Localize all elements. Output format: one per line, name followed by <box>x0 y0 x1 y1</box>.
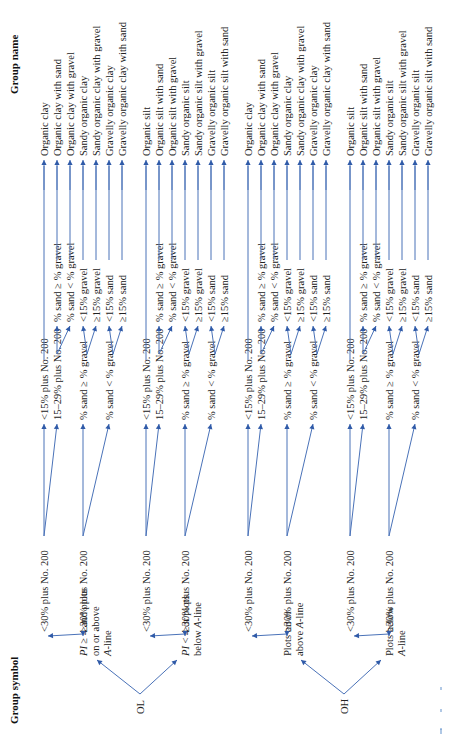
arrowhead-icon <box>271 160 276 165</box>
fines-condition-label: <30% plus No. 200 <box>141 550 152 632</box>
arrowhead-icon <box>245 424 250 429</box>
arrowhead-icon <box>323 160 328 165</box>
arrow-line <box>83 424 109 536</box>
arrowhead-icon <box>143 424 148 429</box>
flowchart-diagram: Group symbol Group name <15% plus No. 20… <box>0 0 450 742</box>
group-name-item: Gravelly organic clay with sand <box>321 21 332 156</box>
arrowhead-icon <box>208 160 213 165</box>
arrowhead-icon <box>54 160 59 165</box>
group-name-item: Gravelly organic clay <box>104 64 115 156</box>
percent-condition: <15% gravel <box>78 268 89 322</box>
arrowhead-icon <box>80 160 85 165</box>
group-name-item: Organic clay with sand <box>52 58 63 156</box>
group-name-item: Organic clay with gravel <box>65 52 76 156</box>
arrowhead-icon <box>285 326 290 331</box>
arrowhead-icon <box>347 160 352 165</box>
group-name-item: Sandy organic silt with gravel <box>397 30 408 156</box>
arrowhead-icon <box>412 160 417 165</box>
arrowhead-icon <box>105 424 110 429</box>
plasticity-condition-label: above A-line <box>294 602 305 656</box>
percent-condition: ≥15% gravel <box>91 268 102 322</box>
percent-condition: ≥15% sand <box>117 274 128 322</box>
arrowhead-icon <box>209 326 214 331</box>
plasticity-condition-label: A-line <box>102 630 113 657</box>
arrowhead-icon <box>347 424 352 429</box>
arrowhead-icon <box>413 326 418 331</box>
arrow-line <box>350 424 363 536</box>
arrow-line <box>287 424 313 536</box>
group-name-item: Sandy organic clay <box>78 75 89 156</box>
plasticity-condition-label: below A-line <box>192 602 203 656</box>
arrowhead-icon <box>354 633 359 638</box>
arrowhead-icon <box>386 160 391 165</box>
group-name-item: Organic clay <box>39 102 50 156</box>
arrowhead-icon <box>386 424 391 429</box>
arrowhead-icon <box>311 326 316 331</box>
group-name-item: Organic silt with sand <box>154 63 165 156</box>
arrowhead-icon <box>297 160 302 165</box>
arrowhead-icon <box>107 326 112 331</box>
arrowhead-icon <box>119 160 124 165</box>
percent-condition: <15% gravel <box>180 268 191 322</box>
group-name-header: Group name <box>8 34 20 94</box>
arrowhead-icon <box>373 160 378 165</box>
percent-condition: ≥15% gravel <box>397 268 408 322</box>
group-symbol-header: Group symbol <box>8 657 20 724</box>
group-name-item: Sandy organic clay with gravel <box>295 25 306 156</box>
arrowhead-icon <box>195 160 200 165</box>
arrowhead-icon <box>245 160 250 165</box>
plasticity-condition-label: on or above <box>90 606 101 656</box>
group-name-item: Organic clay <box>243 102 254 156</box>
fines-condition-label: <30% plus No. 200 <box>39 550 50 632</box>
arrowhead-icon <box>399 160 404 165</box>
arrowhead-icon <box>182 160 187 165</box>
group-name-item: Organic silt with gravel <box>167 57 178 156</box>
plasticity-condition-label: A-line <box>396 630 407 657</box>
percent-condition: ≥15% sand <box>321 274 332 322</box>
group-name-item: Sandy organic silt <box>384 80 395 156</box>
arrowhead-icon <box>67 160 72 165</box>
percent-condition: ≥15% gravel <box>295 268 306 322</box>
arrowhead-icon <box>156 160 161 165</box>
percent-condition: <15% gravel <box>384 268 395 322</box>
percent-condition: ≥15% gravel <box>193 268 204 322</box>
group-name-item: Organic clay with gravel <box>269 52 280 156</box>
arrowhead-icon <box>150 633 155 638</box>
percent-condition: <15% sand <box>206 274 217 322</box>
plasticity-condition-label: PI ≥ 4 and plots <box>78 589 89 657</box>
arrowhead-icon <box>81 326 86 331</box>
percent-condition: <15% sand <box>308 274 319 322</box>
arrowhead-icon <box>80 424 85 429</box>
arrow-line <box>301 660 344 694</box>
group-name-item: Sandy organic silt <box>180 80 191 156</box>
group-symbol-oh: OH <box>339 698 350 714</box>
arrowhead-icon <box>284 160 289 165</box>
arrow-line <box>344 660 381 694</box>
arrowhead-icon <box>41 424 46 429</box>
arrowhead-icon <box>207 424 212 429</box>
arrowhead-icon <box>309 424 314 429</box>
group-name-item: Gravelly organic silt <box>410 70 421 156</box>
arrowhead-icon <box>425 160 430 165</box>
arrowhead-icon <box>183 326 188 331</box>
arrowhead-icon <box>48 633 53 638</box>
group-name-item: Gravelly organic silt with sand <box>219 26 230 156</box>
caption-mark <box>440 728 442 730</box>
group-name-item: Sandy organic clay <box>282 75 293 156</box>
arrow-line <box>185 424 211 536</box>
group-name-item: Sandy organic silt with gravel <box>193 30 204 156</box>
arrow-line <box>146 424 159 536</box>
arrowhead-icon <box>258 160 263 165</box>
arrowhead-icon <box>310 160 315 165</box>
group-name-item: Gravelly organic silt with sand <box>423 26 434 156</box>
arrowhead-icon <box>360 160 365 165</box>
arrowhead-icon <box>221 160 226 165</box>
caption-mark <box>440 709 442 712</box>
group-name-item: Organic silt with sand <box>358 63 369 156</box>
arrow-line <box>248 424 261 536</box>
plasticity-condition-label: PI < 4 or plots <box>180 595 191 657</box>
group-name-item: Organic clay with sand <box>256 58 267 156</box>
faded-caption <box>440 687 442 734</box>
arrowhead-icon <box>284 424 289 429</box>
group-name-item: Sandy organic clay with gravel <box>91 25 102 156</box>
